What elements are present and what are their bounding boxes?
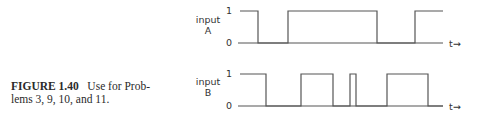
timing-waveforms — [0, 0, 486, 120]
figure: FIGURE 1.40 Use for Prob- lems 3, 9, 10,… — [0, 0, 486, 120]
signal-b-waveform — [238, 74, 443, 106]
signal-a-waveform — [238, 11, 443, 43]
